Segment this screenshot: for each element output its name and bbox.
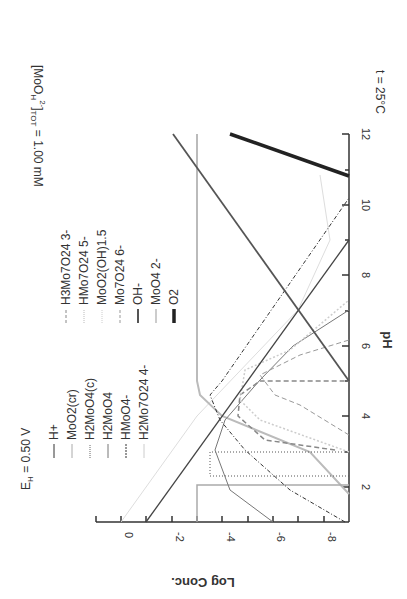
- x-axis-title: pH: [380, 331, 395, 348]
- y-axis-title: Log Conc.: [171, 575, 235, 590]
- svg-text:H3Mo7O24 3-: H3Mo7O24 3-: [59, 230, 73, 305]
- svg-text:2: 2: [360, 484, 372, 490]
- svg-text:-8: -8: [326, 532, 338, 542]
- svg-text:10: 10: [360, 199, 372, 211]
- series-moo2oh15: [121, 175, 330, 522]
- svg-text:-4: -4: [225, 532, 237, 542]
- series-moo4: [197, 134, 349, 494]
- series-oh-minus: [173, 134, 349, 381]
- svg-text:H2MoO4: H2MoO4: [101, 392, 115, 440]
- svg-text:8: 8: [360, 272, 372, 278]
- svg-text:HMoO4-: HMoO4-: [119, 395, 133, 440]
- svg-text:H2Mo7O24 4-: H2Mo7O24 4-: [137, 365, 151, 440]
- series-h2moo4: [215, 310, 349, 522]
- svg-text:OH-: OH-: [131, 283, 145, 305]
- eh-annotation: EH = 0.50 V: [19, 428, 35, 490]
- svg-text:-6: -6: [275, 532, 287, 542]
- svg-text:H+: H+: [47, 424, 61, 440]
- svg-text:4: 4: [360, 413, 372, 419]
- legend: H+ MoO2(cr) H2MoO4(c) H2MoO4 HMoO4- H2Mo…: [47, 229, 181, 458]
- svg-text:H2MoO4(c): H2MoO4(c): [83, 378, 97, 440]
- series-lines: [121, 134, 349, 522]
- y-tick-labels: 0 -2 -4 -6 -8: [123, 532, 338, 542]
- svg-text:MoO4 2-: MoO4 2-: [149, 258, 163, 305]
- svg-text:0: 0: [123, 532, 135, 538]
- series-mo7o24: [260, 340, 349, 435]
- temperature-annotation: t = 25°C: [373, 70, 387, 114]
- x-tick-labels: 2 4 6 8 10 12: [360, 128, 372, 490]
- series-o2: [230, 134, 349, 176]
- svg-text:HMo7O24 5-: HMo7O24 5-: [77, 236, 91, 305]
- svg-text:6: 6: [360, 343, 372, 349]
- svg-text:-2: -2: [174, 532, 186, 542]
- svg-text:O2: O2: [167, 289, 181, 305]
- svg-text:MoO2(cr): MoO2(cr): [65, 389, 79, 440]
- svg-text:MoO2(OH)1.5: MoO2(OH)1.5: [95, 229, 109, 305]
- chart: 2 4 6 8 10 12 0 -2 -4 -6 -8 pH Log Conc.…: [0, 0, 407, 599]
- svg-text:12: 12: [360, 128, 372, 140]
- concentration-annotation: [MoOH2-]TOT = 1.00 mM: [29, 65, 47, 187]
- svg-text:Mo7O24 6-: Mo7O24 6-: [113, 245, 127, 305]
